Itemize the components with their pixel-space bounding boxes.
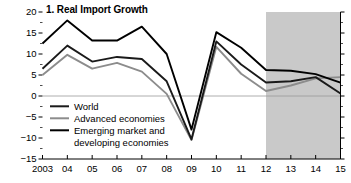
- y-tick-label: 10: [26, 48, 37, 59]
- x-tick-label: 10: [211, 163, 222, 174]
- y-tick-label: −5: [26, 111, 37, 122]
- x-tick-label: 07: [137, 163, 148, 174]
- x-tick-label: 04: [62, 163, 73, 174]
- x-tick-label: 08: [161, 163, 172, 174]
- y-axis-tick-labels: 20151050−5−10−15: [20, 6, 36, 164]
- y-tick-label: −10: [20, 132, 36, 143]
- x-tick-label: 15: [335, 163, 346, 174]
- x-tick-label: 13: [286, 163, 297, 174]
- x-tick-label: 12: [261, 163, 272, 174]
- chart-legend: WorldAdvanced economiesEmerging market a…: [50, 101, 169, 148]
- real-import-growth-chart: 20151050−5−10−15 20030405060708091011121…: [0, 0, 351, 183]
- x-tick-label: 11: [236, 163, 246, 174]
- y-axis-minor-ticks: [40, 23, 43, 149]
- chart-panel: 1. Real Import Growth 20151050−5−10−15 2…: [0, 0, 351, 183]
- legend-label: World: [74, 101, 99, 112]
- x-axis-tick-labels: 2003040506070809101112131415: [32, 163, 346, 174]
- legend-label: Advanced economies: [74, 113, 165, 124]
- x-tick-label: 05: [87, 163, 98, 174]
- y-tick-label: 15: [26, 27, 37, 38]
- legend-label: Emerging market and: [74, 125, 165, 136]
- legend-label: developing economies: [74, 137, 169, 148]
- y-tick-label: 0: [31, 90, 36, 101]
- y-tick-label: 5: [31, 69, 36, 80]
- x-tick-label: 14: [310, 163, 321, 174]
- x-tick-label: 09: [186, 163, 197, 174]
- x-tick-label: 2003: [32, 163, 53, 174]
- y-tick-label: 20: [26, 6, 37, 17]
- x-tick-label: 06: [112, 163, 123, 174]
